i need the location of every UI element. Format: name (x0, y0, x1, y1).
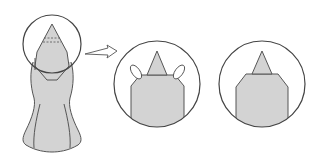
origami-diagram (0, 0, 322, 165)
zoom-detail-fold (114, 41, 200, 140)
fold-arrow-left-icon (128, 63, 144, 81)
zoom-detail-result (219, 41, 305, 140)
zoom-arrow-icon (85, 45, 117, 58)
full-figure (23, 15, 81, 152)
fold-arrow-right-icon (171, 63, 187, 81)
